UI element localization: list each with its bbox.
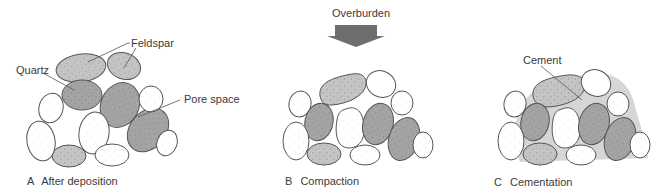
lithic-grain: [350, 145, 380, 165]
panel-b-title: Compaction: [300, 175, 359, 187]
lithic-grain: [413, 132, 433, 158]
quartz-grain: [62, 80, 102, 110]
panel-b-letter: B: [285, 175, 292, 187]
lithic-grain: [283, 122, 309, 160]
panel-b-caption: B Compaction: [285, 175, 359, 187]
panel-b: B Compaction: [283, 66, 433, 187]
feldspar-grain: [52, 145, 86, 167]
pore-space-label: Pore space: [184, 93, 240, 105]
lithic-grain: [607, 92, 629, 116]
lithic-grain: [552, 108, 580, 148]
panel-a-letter: A: [27, 175, 35, 187]
panel-a-caption: A After deposition: [27, 175, 118, 187]
panel-c-title: Cementation: [510, 176, 572, 188]
overburden-indicator: Overburden: [327, 7, 390, 47]
lithic-grain: [391, 91, 413, 115]
panel-c: Cement C Cementation: [494, 54, 650, 188]
lithic-grain: [336, 108, 364, 148]
panel-c-caption: C Cementation: [494, 176, 572, 188]
panel-a-title: After deposition: [41, 175, 117, 187]
cement-label: Cement: [523, 54, 562, 66]
down-arrow-icon: [327, 25, 385, 47]
feldspar-grain: [523, 143, 557, 165]
lithic-grain: [95, 144, 129, 166]
overburden-label: Overburden: [332, 7, 390, 19]
lithic-grain: [498, 122, 524, 160]
lithic-grain: [630, 132, 650, 158]
feldspar-grain: [307, 143, 341, 165]
lithic-grain: [566, 145, 596, 165]
quartz-label: Quartz: [16, 64, 49, 76]
panel-a: Feldspar Quartz Pore space A After depos…: [16, 37, 240, 187]
panel-c-letter: C: [494, 176, 502, 188]
feldspar-label: Feldspar: [131, 37, 174, 49]
feldspar-grain: [104, 48, 145, 84]
feldspar-grain: [320, 74, 366, 106]
sediment-lithification-diagram: Feldspar Quartz Pore space A After depos…: [0, 0, 656, 195]
